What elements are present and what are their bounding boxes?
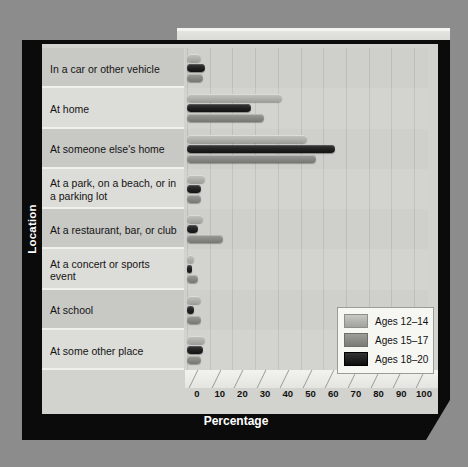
x-tick-label: 20: [237, 388, 248, 399]
category-label: At a park, on a beach, or in a parking l…: [42, 169, 184, 209]
category-label-text: At a restaurant, bar, or club: [50, 224, 177, 237]
bar: [187, 155, 316, 163]
bar: [187, 296, 201, 304]
category-label-text: At a park, on a beach, or in a parking l…: [50, 177, 178, 202]
category-label-text: At school: [50, 304, 93, 317]
bar: [187, 225, 198, 233]
legend-item: Ages 12–14: [344, 313, 427, 329]
bar-group: [185, 88, 428, 128]
category-label-column: In a car or other vehicleAt homeAt someo…: [42, 48, 184, 370]
bar-group: [185, 48, 428, 88]
category-label: At someone else's home: [42, 129, 184, 169]
y-axis-title-text: Location: [26, 204, 38, 254]
category-label-text: At home: [50, 103, 89, 116]
bar: [187, 235, 223, 243]
category-label-text: At someone else's home: [50, 143, 165, 156]
bar: [187, 215, 203, 223]
x-tick-label: 60: [328, 388, 339, 399]
bar-group: [185, 209, 428, 249]
x-tick-label: 40: [283, 388, 294, 399]
legend-label: Ages 18–20: [375, 354, 428, 365]
bar: [187, 175, 205, 183]
legend-label: Ages 15–17: [375, 335, 428, 346]
category-label-text: At some other place: [50, 345, 143, 358]
category-label-text: In a car or other vehicle: [50, 63, 160, 76]
category-label: At school: [42, 290, 184, 330]
bar: [187, 346, 203, 354]
x-tick-label: 10: [214, 388, 225, 399]
bar: [187, 306, 194, 314]
chart-figure: Location In a car or other vehicleAt hom…: [0, 0, 468, 467]
bar: [187, 185, 201, 193]
bar: [187, 265, 192, 273]
x-axis-title: Percentage: [34, 414, 438, 428]
legend-label: Ages 12–14: [375, 316, 428, 327]
bar: [187, 94, 282, 102]
bar: [187, 316, 201, 324]
axis-tick-mark: [209, 370, 223, 388]
category-label: At a restaurant, bar, or club: [42, 209, 184, 249]
axis-tick-mark: [300, 370, 314, 388]
bar: [187, 74, 203, 82]
bar: [187, 275, 198, 283]
x-tick-label: 80: [373, 388, 384, 399]
bar: [187, 255, 194, 263]
axis-tick-mark: [255, 370, 269, 388]
light-gray-swatch: [344, 314, 368, 328]
bar: [187, 195, 201, 203]
legend: Ages 12–14 Ages 15–17 Ages 18–20: [337, 307, 434, 374]
x-tick-label: 0: [194, 388, 199, 399]
x-tick-label: 90: [396, 388, 407, 399]
axis-tick-mark: [187, 370, 201, 388]
bar: [187, 64, 205, 72]
black-swatch: [344, 352, 368, 366]
y-axis-title: Location: [22, 44, 42, 414]
category-label: In a car or other vehicle: [42, 48, 184, 88]
axis-tick-mark: [277, 370, 291, 388]
category-label: At a concert or sports event: [42, 249, 184, 289]
x-tick-label: 100: [416, 388, 432, 399]
x-tick-label: 50: [305, 388, 316, 399]
x-tick-label: 70: [351, 388, 362, 399]
bar: [187, 54, 201, 62]
category-label-text: At a concert or sports event: [50, 258, 178, 283]
bar-group: [185, 129, 428, 169]
category-label: At some other place: [42, 330, 184, 370]
x-axis-tick-labels: 0102030405060708090100: [185, 388, 438, 404]
bar: [187, 114, 264, 122]
bar: [187, 336, 205, 344]
legend-item: Ages 15–17: [344, 332, 427, 348]
bar: [187, 145, 335, 153]
bar-group: [185, 249, 428, 289]
category-label: At home: [42, 88, 184, 128]
legend-item: Ages 18–20: [344, 351, 427, 367]
bar: [187, 135, 307, 143]
axis-tick-mark: [232, 370, 246, 388]
bar: [187, 104, 251, 112]
medium-gray-swatch: [344, 333, 368, 347]
bar-group: [185, 169, 428, 209]
x-tick-label: 30: [260, 388, 271, 399]
axis-tick-mark: [323, 370, 337, 388]
chart-3d-block: Location In a car or other vehicleAt hom…: [22, 28, 450, 440]
bar: [187, 356, 201, 364]
